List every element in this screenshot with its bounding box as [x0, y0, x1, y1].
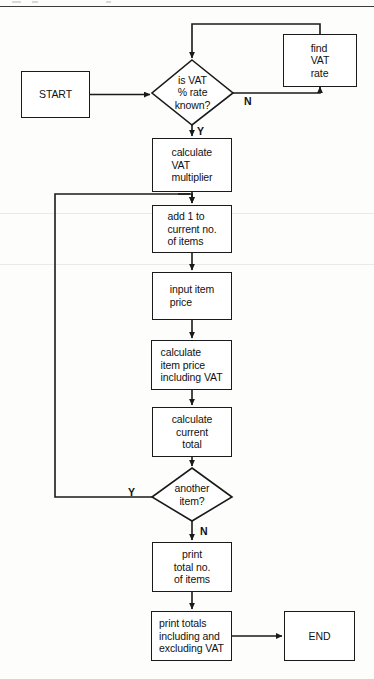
node-calculate-multiplier[interactable]: calculate VAT multiplier [152, 138, 232, 192]
node-calculate-multiplier-label: calculate VAT multiplier [165, 146, 218, 184]
branch-label-vat-yes: Y [197, 126, 204, 137]
node-add-one-item[interactable]: add 1 to current no. of items [152, 205, 232, 253]
edge-loopback-join [178, 194, 192, 203]
node-calculate-item-price[interactable]: calculate item price including VAT [151, 340, 232, 390]
node-start-label: START [35, 88, 76, 101]
node-input-price[interactable]: input item price [152, 272, 232, 320]
branch-label-vat-no: N [244, 96, 252, 107]
node-add-one-item-label: add 1 to current no. of items [161, 210, 222, 248]
node-end[interactable]: END [284, 611, 355, 661]
node-print-totals-label: print totals including and excluding VAT [153, 617, 230, 655]
node-input-price-label: input item price [164, 283, 221, 308]
node-find-vat-rate[interactable]: find VAT rate [283, 34, 357, 87]
node-print-totals[interactable]: print totals including and excluding VAT [151, 611, 232, 661]
node-calculate-item-price-label: calculate item price including VAT [155, 346, 229, 384]
node-calculate-total[interactable]: calculate current total [152, 407, 232, 457]
branch-label-another-yes: Y [128, 487, 135, 498]
node-print-total-items[interactable]: print total no. of items [152, 542, 232, 592]
node-find-vat-rate-label: find VAT rate [305, 42, 336, 80]
flowchart-page: START find VAT rate is VAT % rate known?… [0, 0, 374, 679]
decision-another-item-shape [152, 468, 232, 521]
node-calculate-total-label: calculate current total [168, 413, 217, 451]
decision-vat-known-shape [152, 60, 233, 125]
node-print-total-items-label: print total no. of items [170, 548, 214, 586]
node-start[interactable]: START [21, 71, 90, 118]
node-end-label: END [305, 630, 335, 643]
branch-label-another-no: N [200, 526, 208, 537]
edge-decision-no-to-findrate [233, 87, 320, 93]
